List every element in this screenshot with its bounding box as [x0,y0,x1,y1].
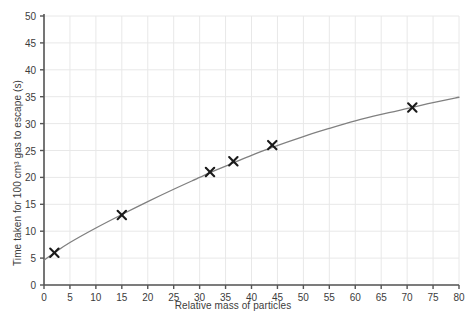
gridlines [44,16,459,285]
data-point-marker [50,249,58,257]
data-point-markers [50,103,416,257]
plot-area [0,0,466,318]
data-point-marker [268,141,276,149]
data-point-marker [206,168,214,176]
chart-container: Time taken for 100 cm³ gas to escape (s)… [0,0,466,318]
tick-marks [40,16,459,289]
